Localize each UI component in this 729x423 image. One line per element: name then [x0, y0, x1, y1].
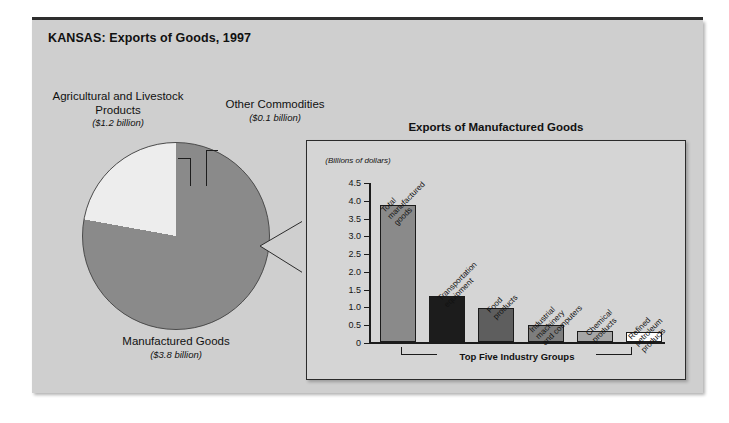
y-tick	[364, 183, 369, 184]
pie-label-other: Other Commodities ($0.1 billion)	[200, 98, 350, 123]
y-tick-label: 0	[356, 338, 361, 348]
pie-label-manufactured: Manufactured Goods ($3.8 billion)	[86, 335, 266, 360]
y-tick	[364, 201, 369, 202]
y-tick	[364, 219, 369, 220]
y-tick-label: 3.0	[348, 231, 361, 241]
y-axis-units-label: (Billions of dollars)	[321, 156, 395, 165]
y-tick-label: 2.0	[348, 267, 361, 277]
pie-label-agricultural-name: Agricultural and Livestock Products	[38, 90, 198, 117]
bracket-label: Top Five Industry Groups	[369, 351, 665, 362]
y-tick	[364, 272, 369, 273]
y-tick-label: 0.5	[348, 320, 361, 330]
y-tick-label: 3.5	[348, 214, 361, 224]
y-tick-label: 1.5	[348, 285, 361, 295]
figure-root: KANSAS: Exports of Goods, 1997 Agricultu…	[0, 0, 729, 423]
y-tick-label: 4.0	[348, 196, 361, 206]
leader-line-agricultural-h	[178, 158, 191, 159]
leader-line-other-h	[206, 150, 218, 151]
pie-label-agricultural: Agricultural and Livestock Products ($1.…	[38, 90, 198, 128]
callout-wedge	[258, 216, 308, 278]
x-axis	[369, 342, 665, 344]
inset-title: Exports of Manufactured Goods	[306, 121, 686, 133]
inset-panel: (Billions of dollars) 00.51.01.52.02.53.…	[306, 140, 686, 380]
page-title: KANSAS: Exports of Goods, 1997	[48, 31, 251, 45]
bar-plot-area: 00.51.01.52.02.53.03.54.04.5Total manufa…	[369, 183, 665, 343]
leader-line-other-v	[206, 150, 207, 186]
y-tick	[364, 236, 369, 237]
pie-label-agricultural-value: ($1.2 billion)	[38, 117, 198, 128]
y-tick	[364, 307, 369, 308]
y-tick	[364, 254, 369, 255]
y-tick	[364, 343, 369, 344]
y-tick-label: 1.0	[348, 302, 361, 312]
pie-disc	[82, 142, 270, 330]
pie-label-manufactured-value: ($3.8 billion)	[86, 349, 266, 360]
leader-line-agricultural-v	[190, 158, 191, 186]
industry-bracket: Top Five Industry Groups	[369, 347, 665, 363]
y-tick-label: 4.5	[348, 178, 361, 188]
y-tick	[364, 325, 369, 326]
y-tick-label: 2.5	[348, 249, 361, 259]
y-axis	[369, 183, 371, 343]
pie-label-manufactured-name: Manufactured Goods	[86, 335, 266, 349]
figure-panel: KANSAS: Exports of Goods, 1997 Agricultu…	[32, 20, 703, 393]
y-tick	[364, 290, 369, 291]
pie-label-other-name: Other Commodities	[200, 98, 350, 112]
